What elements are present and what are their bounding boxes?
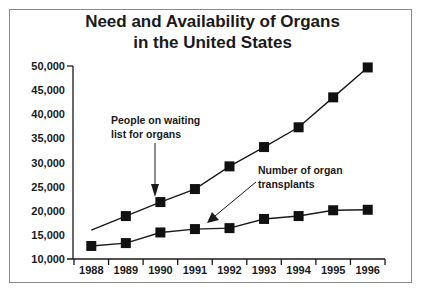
y-tick-label: 10,000	[31, 253, 65, 265]
waiting-list-line	[91, 67, 367, 230]
transplants-annotation: Number of organ	[258, 164, 343, 176]
arrow-head-icon	[151, 184, 159, 197]
transplants-arrow	[215, 182, 256, 216]
y-tick-label: 15,000	[31, 229, 65, 241]
data-point-marker	[259, 142, 269, 152]
y-tick-label: 25,000	[31, 181, 65, 193]
x-tick-label: 1992	[217, 264, 241, 276]
data-point-marker	[259, 214, 269, 224]
data-point-marker	[121, 211, 131, 221]
data-point-marker	[363, 62, 373, 72]
x-tick-label: 1993	[252, 264, 276, 276]
data-point-marker	[294, 122, 304, 132]
data-point-marker	[363, 205, 373, 215]
data-point-marker	[86, 241, 96, 251]
data-point-marker	[155, 197, 165, 207]
data-point-marker	[328, 205, 338, 215]
y-tick-label: 40,000	[31, 108, 65, 120]
line-chart: 10,00015,00020,00025,00030,00035,00040,0…	[0, 0, 425, 292]
x-tick-label: 1994	[286, 264, 311, 276]
waiting-list-annotation: People on waiting	[111, 114, 200, 126]
y-tick-label: 50,000	[31, 60, 65, 72]
x-tick-label: 1996	[355, 264, 379, 276]
transplants-annotation: transplants	[258, 178, 315, 190]
x-tick-label: 1988	[79, 264, 103, 276]
data-point-marker	[225, 223, 235, 233]
x-tick-label: 1990	[148, 264, 172, 276]
data-point-marker	[190, 224, 200, 234]
y-tick-label: 20,000	[31, 205, 65, 217]
data-point-marker	[225, 161, 235, 171]
data-point-marker	[155, 227, 165, 237]
data-point-marker	[294, 211, 304, 221]
data-point-marker	[190, 184, 200, 194]
data-point-marker	[328, 92, 338, 102]
y-tick-label: 35,000	[31, 132, 65, 144]
data-point-marker	[121, 238, 131, 248]
x-tick-label: 1991	[183, 264, 207, 276]
y-tick-label: 30,000	[31, 157, 65, 169]
x-tick-label: 1995	[321, 264, 345, 276]
y-tick-label: 45,000	[31, 84, 65, 96]
x-tick-label: 1989	[114, 264, 138, 276]
waiting-list-annotation: list for organs	[111, 128, 181, 140]
